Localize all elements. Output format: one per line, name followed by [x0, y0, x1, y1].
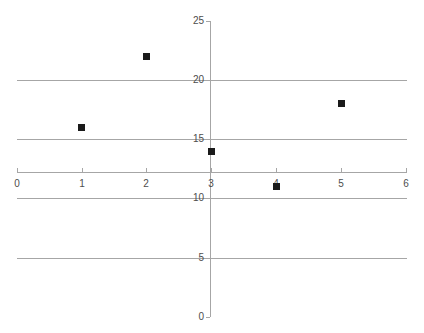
x-tick-mark-3	[211, 168, 212, 172]
y-tick-mark-15	[206, 139, 210, 140]
y-tick-mark-5	[206, 258, 210, 259]
data-point	[78, 124, 85, 131]
y-tick-label-25: 25	[193, 16, 204, 26]
gridline-y-10	[17, 198, 407, 199]
y-tick-mark-25	[206, 21, 210, 22]
y-tick-label-15: 15	[193, 134, 204, 144]
x-tick-mark-2	[146, 168, 147, 172]
x-tick-label-0: 0	[7, 178, 27, 189]
x-tick-label-6: 6	[396, 178, 416, 189]
x-tick-label-5: 5	[331, 178, 351, 189]
x-axis-line	[17, 172, 407, 173]
y-tick-label-0: 0	[198, 312, 204, 322]
x-tick-label-2: 2	[136, 178, 156, 189]
y-tick-mark-10	[206, 198, 210, 199]
gridline-y-20	[17, 80, 407, 81]
y-tick-mark-20	[206, 80, 210, 81]
data-point	[208, 148, 215, 155]
x-tick-mark-1	[82, 168, 83, 172]
data-point	[338, 100, 345, 107]
x-tick-mark-6	[406, 168, 407, 172]
y-tick-mark-0	[206, 317, 210, 318]
gridline-y-15	[17, 139, 407, 140]
data-point	[143, 53, 150, 60]
gridline-y-5	[17, 258, 407, 259]
y-tick-label-20: 20	[193, 75, 204, 85]
data-point	[273, 183, 280, 190]
x-tick-label-3: 3	[201, 178, 221, 189]
x-tick-mark-5	[341, 168, 342, 172]
y-tick-label-5: 5	[198, 253, 204, 263]
x-tick-mark-0	[17, 168, 18, 172]
scatter-chart: 25 20 15 10 5 0 0 1 2 3 4 5 6	[0, 0, 424, 333]
y-tick-label-10: 10	[193, 193, 204, 203]
x-tick-label-1: 1	[72, 178, 92, 189]
x-tick-mark-4	[276, 168, 277, 172]
